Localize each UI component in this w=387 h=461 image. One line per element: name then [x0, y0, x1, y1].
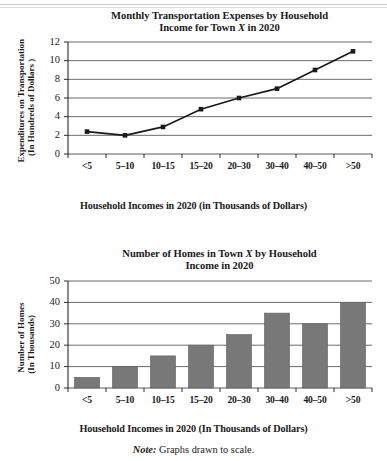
- bar-chart-y-tick-label: 10: [38, 361, 60, 372]
- bar-chart-x-tick-label: >50: [331, 395, 375, 405]
- bar-chart-bar: [188, 345, 213, 388]
- bar-chart-title-line1-pre: Number of Homes in Town: [122, 248, 245, 259]
- figure-note-text: Graphs drawn to scale.: [156, 444, 254, 455]
- line-chart-x-axis-label: Household Incomes in 2020 (in Thousands …: [0, 200, 387, 211]
- line-chart-y-tick-label: 10: [38, 55, 60, 66]
- line-chart-title: Monthly Transportation Expenses by House…: [0, 10, 387, 35]
- line-chart-data-point: [313, 68, 318, 73]
- line-chart-data-point: [85, 129, 90, 134]
- bar-chart-bar: [226, 335, 251, 389]
- line-chart-title-line2-pre: Income for Town: [159, 22, 238, 33]
- line-chart-data-point: [123, 133, 128, 138]
- figure-note: Note: Graphs drawn to scale.: [0, 444, 387, 455]
- bar-chart-bar: [302, 324, 327, 388]
- bar-chart-title-town-letter: X: [245, 248, 252, 259]
- line-chart-y-tick-label: 8: [38, 74, 60, 85]
- bar-chart-y-tick-label: 50: [38, 276, 60, 287]
- line-chart-data-point: [237, 96, 242, 101]
- line-chart-y-tick-label: 2: [38, 130, 60, 141]
- line-chart-y-tick-label: 4: [38, 111, 60, 122]
- bar-chart-y-tick-label: 30: [38, 319, 60, 330]
- bar-chart-y-tick-label: 20: [38, 340, 60, 351]
- bar-chart-x-axis-label: Household Incomes in 2020 (In Thousands …: [0, 423, 387, 434]
- line-chart-figure: Monthly Transportation Expenses by House…: [0, 10, 387, 220]
- bar-chart-svg: [0, 276, 387, 398]
- line-chart-series: [87, 51, 353, 135]
- page-top-rule: [0, 4, 387, 5]
- bar-chart-bar: [150, 356, 175, 388]
- line-chart-data-point: [161, 125, 166, 130]
- figure-page: Monthly Transportation Expenses by House…: [0, 0, 387, 461]
- line-chart-y-tick-label: 12: [38, 37, 60, 48]
- line-chart-data-point: [275, 86, 280, 91]
- line-chart-x-tick-label: >50: [331, 161, 375, 171]
- bar-chart-figure: Number of Homes in Town X by Household I…: [0, 248, 387, 448]
- bar-chart-bar: [112, 367, 137, 388]
- line-chart-data-point: [199, 107, 204, 112]
- bar-chart-bar: [74, 377, 99, 388]
- line-chart-data-point: [351, 49, 356, 54]
- page-top-rule-secondary: [0, 7, 387, 8]
- bar-chart-y-tick-label: 0: [38, 383, 60, 394]
- bar-chart-title-line2: Income in 2020: [185, 260, 253, 271]
- line-chart-title-town-letter: X: [238, 22, 245, 33]
- line-chart-title-line1: Monthly Transportation Expenses by House…: [111, 10, 328, 21]
- line-chart-y-tick-label: 0: [38, 149, 60, 160]
- bar-chart-title: Number of Homes in Town X by Household I…: [0, 248, 387, 273]
- bar-chart-bar: [340, 302, 365, 388]
- bar-chart-title-line1-post: by Household: [253, 248, 317, 259]
- bar-chart-bar: [264, 313, 289, 388]
- bar-chart-plot: [0, 276, 387, 398]
- line-chart-y-tick-label: 6: [38, 93, 60, 104]
- figure-note-label: Note:: [133, 444, 157, 455]
- line-chart-title-line2-post: in 2020: [245, 22, 280, 33]
- bar-chart-y-tick-label: 40: [38, 297, 60, 308]
